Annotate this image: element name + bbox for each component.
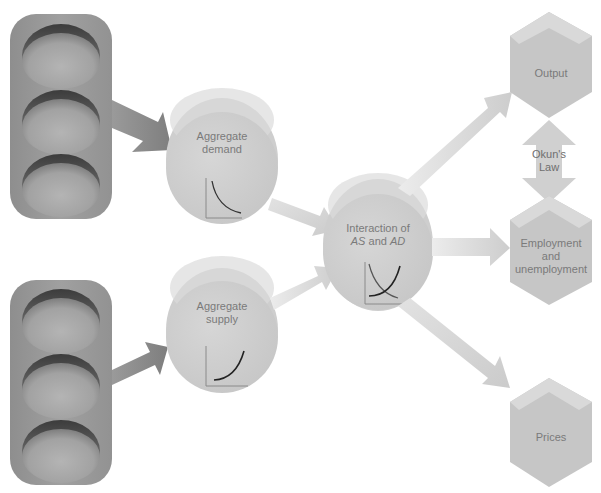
arrow-interaction-to-output: [398, 92, 512, 196]
interaction-and-word: and: [365, 235, 389, 247]
arrow-interaction-to-employment: [432, 228, 510, 266]
interaction-ad-term: AD: [390, 235, 405, 247]
arrow-top-panel-to-demand: [112, 100, 172, 152]
bottom-panel-light-3: [22, 420, 100, 483]
interaction-line2: AS and AD: [333, 235, 423, 248]
top-input-panel: [10, 14, 112, 219]
bottom-panel-light-2: [22, 354, 100, 419]
aggregate-supply-label: Aggregate supply: [182, 300, 262, 326]
aggregate-demand-line2: demand: [182, 143, 262, 156]
aggregate-supply-line1: Aggregate: [182, 300, 262, 313]
bottom-input-panel: [10, 280, 112, 485]
aggregate-supply-line2: supply: [182, 313, 262, 326]
top-panel-light-3: [22, 154, 100, 217]
aggregate-demand-line1: Aggregate: [182, 130, 262, 143]
interaction-as-term: AS: [351, 235, 366, 247]
arrow-bottom-panel-to-supply: [112, 342, 168, 385]
employment-line3: unemployment: [506, 263, 596, 276]
prices-label: Prices: [510, 431, 592, 444]
output-label: Output: [510, 67, 592, 80]
interaction-line1: Interaction of: [333, 222, 423, 235]
aggregate-demand-node: [166, 88, 278, 224]
okuns-law-label: Okun's Law: [520, 148, 578, 174]
okuns-law-line2: Law: [520, 161, 578, 174]
okuns-law-line1: Okun's: [520, 148, 578, 161]
diagram-canvas: Aggregate demand Aggregate supply Intera…: [0, 0, 601, 493]
interaction-label: Interaction of AS and AD: [333, 222, 423, 248]
employment-label: Employment and unemployment: [506, 237, 596, 276]
top-panel-light-2: [22, 90, 100, 155]
arrow-interaction-to-prices: [398, 298, 510, 388]
output-hexagon: [510, 12, 592, 118]
employment-line1: Employment: [506, 237, 596, 250]
bottom-panel-light-1: [22, 289, 100, 354]
top-panel-light-1: [22, 24, 100, 89]
employment-line2: and: [506, 250, 596, 263]
aggregate-demand-label: Aggregate demand: [182, 130, 262, 156]
